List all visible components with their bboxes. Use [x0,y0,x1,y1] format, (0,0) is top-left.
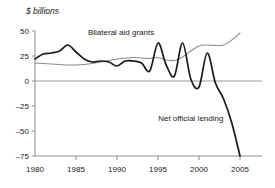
y-tick-labels: 50250–25–50–75 [16,27,30,161]
series-annotations: Bilateral aid grantsNet official lending [88,28,223,123]
x-tick-label: 1990 [108,165,126,174]
x-tick-label: 1985 [67,165,85,174]
y-tick-label: –25 [16,102,30,111]
data-series [35,33,240,156]
series-line-1 [35,33,240,65]
x-tick-label: 2000 [190,165,208,174]
y-axis [32,31,35,156]
y-axis-title: $ billions [25,6,60,16]
x-tick-labels: 198019851990199520002005 [26,165,249,174]
y-tick-label: 50 [20,27,29,36]
x-tick-label: 1980 [26,165,44,174]
y-tick-label: –75 [16,152,30,161]
series-line-2 [35,43,240,156]
y-tick-label: 0 [25,77,30,86]
series-annotation-2: Net official lending [158,114,223,123]
x-tick-label: 2005 [231,165,249,174]
chart-container: $ billions 50250–25–50–75 19801985199019… [0,0,275,188]
x-tick-label: 1995 [149,165,167,174]
y-tick-label: –50 [16,127,30,136]
x-axis [35,156,262,160]
series-annotation-1: Bilateral aid grants [88,28,154,37]
line-chart: $ billions 50250–25–50–75 19801985199019… [0,0,275,188]
y-tick-label: 25 [20,52,29,61]
